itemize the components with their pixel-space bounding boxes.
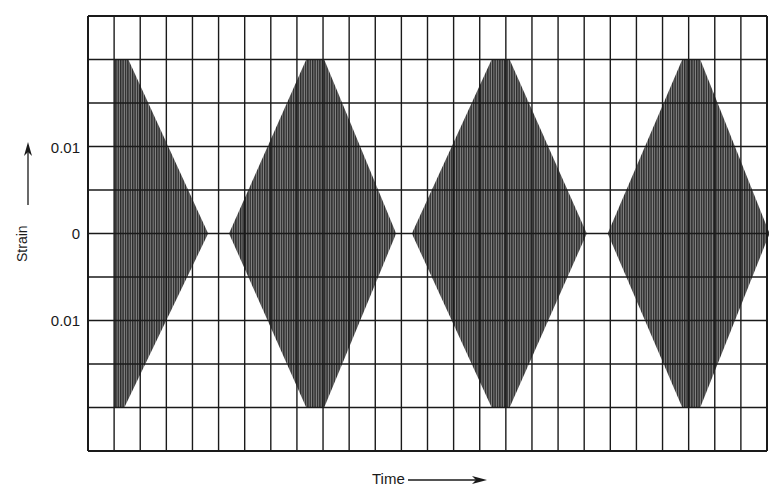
x-axis-label: Time — [372, 470, 405, 487]
y-axis-label: Strain — [14, 225, 30, 262]
strain-time-chart — [0, 0, 781, 500]
y-tick-label-bottom: 0.01 — [20, 312, 80, 329]
y-tick-label-top: 0.01 — [20, 139, 80, 156]
x-axis-arrow-icon — [408, 476, 487, 484]
chart-grid — [88, 16, 767, 451]
